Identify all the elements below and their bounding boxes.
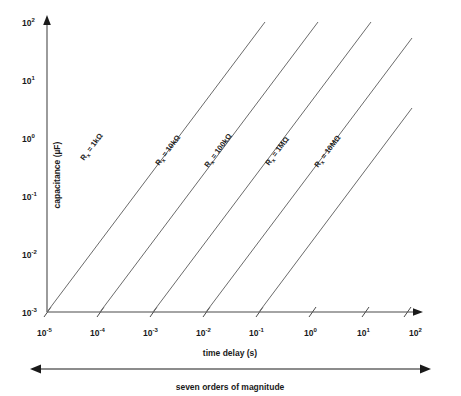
x-tick-label-3: 10-2 bbox=[196, 327, 211, 338]
series-line-1M bbox=[206, 38, 412, 312]
y-tick-label-2: 100 bbox=[22, 133, 35, 144]
series-lines bbox=[47, 22, 412, 312]
magnitude-span-arrow bbox=[30, 365, 431, 374]
y-tick-labels: 102 101 100 10-1 10-2 10-3 bbox=[22, 17, 37, 318]
y-axis bbox=[43, 15, 51, 312]
series-label-100k: Rx = 100kΩ bbox=[202, 132, 234, 170]
x-tick-label-1: 10-4 bbox=[90, 327, 105, 338]
series-label-10k: Rx = 10kΩ bbox=[153, 133, 183, 168]
y-axis-arrowhead bbox=[43, 15, 51, 25]
span-arrow-head-right bbox=[420, 365, 431, 374]
chart-canvas: 102 101 100 10-1 10-2 10-3 10-5 10-4 10-… bbox=[0, 0, 461, 396]
x-tick-label-5: 100 bbox=[304, 327, 317, 338]
series-labels: Rx = 1kΩ Rx = 10kΩ Rx = 100kΩ Rx = 1MΩ R… bbox=[78, 131, 343, 169]
span-arrow-head-left bbox=[30, 365, 41, 374]
x-tick-label-4: 10-1 bbox=[249, 327, 264, 338]
x-tick-labels: 10-5 10-4 10-3 10-2 10-1 100 101 102 bbox=[37, 327, 422, 338]
series-label-1k: Rx = 1kΩ bbox=[78, 131, 105, 162]
magnitude-span-caption: seven orders of magnitude bbox=[176, 382, 285, 392]
x-axis-arrowhead bbox=[413, 308, 423, 316]
x-tick-label-6: 101 bbox=[357, 327, 370, 338]
x-axis bbox=[47, 308, 423, 316]
capacitance-vs-time-delay-chart: 102 101 100 10-1 10-2 10-3 10-5 10-4 10-… bbox=[0, 0, 461, 396]
series-line-1k bbox=[47, 22, 265, 312]
y-axis-title: capacitance (µF) bbox=[52, 141, 62, 208]
y-tick-label-4: 10-2 bbox=[22, 249, 37, 260]
series-label-10M: Rx = 10MΩ bbox=[312, 133, 343, 169]
x-tick-label-0: 10-5 bbox=[37, 327, 52, 338]
series-line-100k bbox=[153, 22, 371, 312]
x-tick-label-7: 102 bbox=[409, 327, 422, 338]
y-tick-label-1: 101 bbox=[22, 75, 35, 86]
x-axis-title: time delay (s) bbox=[203, 348, 257, 358]
series-label-1M: Rx = 1MΩ bbox=[263, 135, 291, 168]
y-tick-label-3: 10-1 bbox=[22, 191, 37, 202]
y-tick-label-5: 10-3 bbox=[22, 307, 37, 318]
y-tick-label-0: 102 bbox=[22, 17, 35, 28]
x-tick-label-2: 10-3 bbox=[143, 327, 158, 338]
